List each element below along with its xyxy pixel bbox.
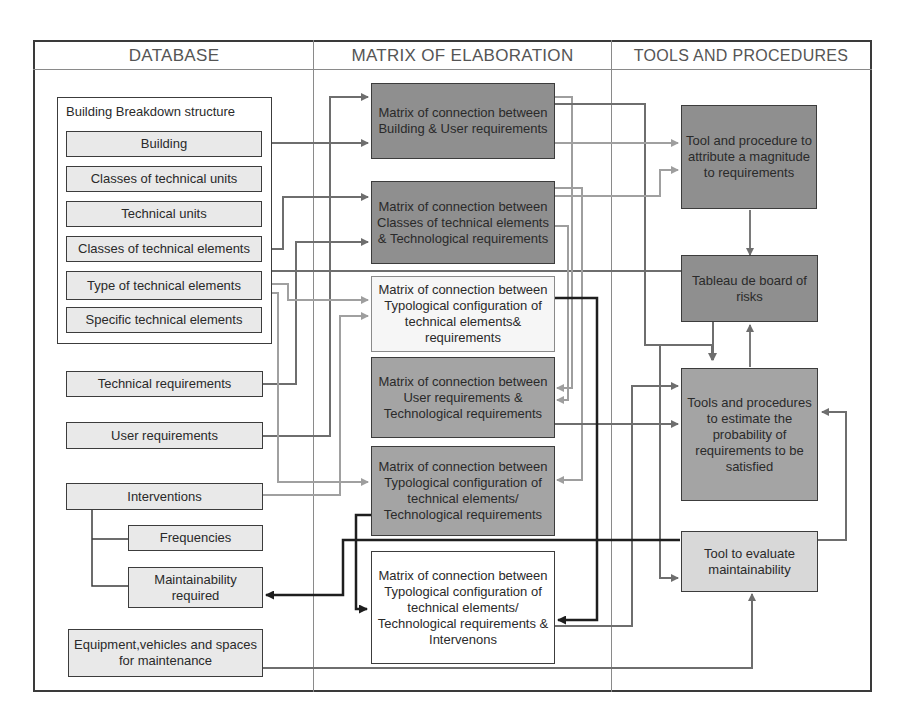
db-frequencies[interactable]: Frequencies <box>128 525 263 551</box>
db-user-requirements[interactable]: User requirements <box>66 422 263 449</box>
tool-estimate-probability[interactable]: Tools and procedures to estimate the pro… <box>681 368 818 501</box>
matrix-user-technological[interactable]: Matrix of connection between User requir… <box>371 357 555 438</box>
building-breakdown-label: Building Breakdown structure <box>66 104 235 119</box>
db-technical-units[interactable]: Technical units <box>66 201 262 227</box>
column-header-database: DATABASE <box>35 42 313 69</box>
column-header-matrix: MATRIX OF ELABORATION <box>314 42 611 69</box>
db-classes-technical-elements[interactable]: Classes of technical elements <box>66 236 262 262</box>
matrix-typological-technological-interventions[interactable]: Matrix of connection between Typological… <box>371 551 555 664</box>
db-building[interactable]: Building <box>66 131 262 157</box>
column-divider-2 <box>611 40 612 692</box>
matrix-building-user[interactable]: Matrix of connection between Building & … <box>371 83 555 159</box>
db-classes-technical-units[interactable]: Classes of technical units <box>66 166 262 192</box>
column-header-tools: TOOLS AND PROCEDURES <box>612 42 870 69</box>
matrix-typological-technological[interactable]: Matrix of connection between Typological… <box>371 446 555 536</box>
header-divider <box>33 69 872 70</box>
matrix-typological-requirements[interactable]: Matrix of connection between Typological… <box>371 276 555 352</box>
column-divider-1 <box>313 40 314 692</box>
db-maintainability-required[interactable]: Maintainability required <box>128 567 263 608</box>
matrix-classes-technological[interactable]: Matrix of connection between Classes of … <box>371 181 555 264</box>
db-interventions[interactable]: Interventions <box>66 483 263 510</box>
tool-evaluate-maintainability[interactable]: Tool to evaluate maintainability <box>681 531 818 592</box>
db-specific-technical-elements[interactable]: Specific technical elements <box>66 307 262 333</box>
tool-tableau-board-risks[interactable]: Tableau de board of risks <box>681 255 818 322</box>
db-type-technical-elements[interactable]: Type of technical elements <box>66 271 262 300</box>
db-equipment[interactable]: Equipment,vehicles and spaces for mainte… <box>68 629 263 677</box>
db-technical-requirements[interactable]: Technical requirements <box>66 371 263 397</box>
tool-attribute-magnitude[interactable]: Tool and procedure to attribute a magnit… <box>681 105 817 209</box>
